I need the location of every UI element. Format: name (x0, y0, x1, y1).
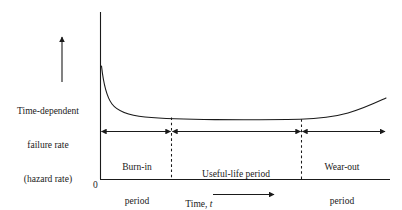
region-label-burn-in-line-1: Burn-in (104, 162, 170, 173)
region-label-burn-in: Burn-in period (104, 140, 170, 210)
region-label-useful-life: Useful-life period (176, 147, 296, 203)
region-label-wear-out: Wear-out period (306, 140, 378, 210)
y-axis-label-line-2: failure rate (0, 140, 96, 151)
origin-tick-label: 0 (93, 180, 98, 191)
region-label-wear-out-line-1: Wear-out (306, 162, 378, 173)
region-label-wear-out-line-2: period (306, 196, 378, 207)
hazard-rate-curve (102, 66, 387, 120)
y-axis-label-line-1: Time-dependent (0, 106, 96, 117)
y-axis-label-line-3: (hazard rate) (0, 174, 96, 185)
region-label-useful-life-line-1: Useful-life period (176, 169, 296, 180)
bathtub-curve-figure: Time-dependent failure rate (hazard rate… (0, 0, 402, 210)
y-axis-label: Time-dependent failure rate (hazard rate… (0, 84, 96, 207)
region-label-burn-in-line-2: period (104, 196, 170, 207)
